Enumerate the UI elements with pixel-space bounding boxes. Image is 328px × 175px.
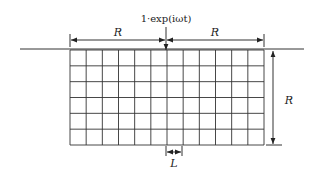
mesh-diagram: 1·exp(iωt) R R R L	[0, 0, 328, 175]
source-label: 1·exp(iωt)	[141, 13, 192, 24]
finite-element-grid	[70, 50, 264, 145]
right-half-width-label: R	[210, 26, 219, 39]
left-half-width-label: R	[113, 26, 122, 39]
cell-size-label: L	[169, 157, 177, 170]
depth-label: R	[284, 94, 293, 107]
